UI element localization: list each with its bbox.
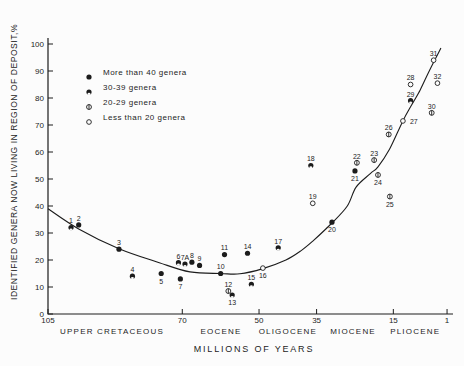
- epoch-label: OLIGOCENE: [259, 327, 317, 336]
- data-point-20: 20: [328, 220, 336, 234]
- y-tick-label: 40: [35, 202, 44, 211]
- point-marker-filled-circle: [189, 260, 194, 265]
- data-point-19: 19: [309, 193, 317, 206]
- data-point-14: 14: [244, 243, 252, 256]
- point-number-label: 21: [351, 175, 359, 182]
- point-marker-filled-circle: [159, 271, 164, 276]
- data-point-5: 5: [159, 271, 164, 285]
- point-marker-filled-circle: [86, 74, 91, 79]
- point-number-label: 24: [374, 179, 382, 186]
- data-point-10: 10: [217, 263, 225, 276]
- point-number-label: 7: [178, 283, 182, 290]
- open-circle-icon: [84, 113, 94, 123]
- filled-circle-glyph: [84, 72, 94, 82]
- data-point-22: 22: [353, 153, 361, 166]
- data-point-12: 12: [224, 281, 232, 294]
- data-point-7A: 7A: [181, 254, 190, 267]
- data-point-2: 2: [76, 215, 81, 228]
- data-point-18: 18: [307, 155, 315, 168]
- x-tick-label: 35: [312, 316, 321, 325]
- point-number-label: 2: [77, 215, 81, 222]
- point-marker-open-circle: [401, 119, 406, 124]
- point-marker-open-circle: [261, 266, 266, 271]
- data-point-26: 26: [385, 124, 393, 137]
- data-point-1: 1: [68, 217, 73, 230]
- point-number-label: 11: [221, 244, 228, 251]
- point-number-label: 15: [247, 274, 255, 281]
- epoch-label: MIOCENE: [330, 327, 376, 336]
- point-marker-filled-circle: [178, 276, 183, 281]
- epoch-label: EOCENE: [201, 327, 242, 336]
- point-number-label: 9: [198, 255, 202, 262]
- epoch-label: PLIOCENE: [390, 327, 440, 336]
- data-point-9: 9: [197, 255, 202, 268]
- x-tick-label: 1: [445, 316, 450, 325]
- legend-item: 30-39 genera: [84, 82, 187, 93]
- point-marker-filled-circle: [76, 222, 81, 227]
- circle-bottom-notch-glyph: [84, 87, 94, 97]
- epoch-label: UPPER CRETACEOUS: [60, 327, 164, 336]
- point-number-label: 22: [353, 153, 361, 160]
- point-number-label: 23: [370, 150, 378, 157]
- y-axis-title: IDENTIFIED GENERA NOW LIVING IN REGION O…: [9, 24, 19, 300]
- point-number-label: 25: [386, 201, 394, 208]
- data-point-3: 3: [116, 239, 121, 252]
- data-point-4: 4: [130, 266, 135, 279]
- point-marker-notch: [277, 249, 280, 251]
- point-number-label: 17: [274, 238, 282, 245]
- y-tick-label: 50: [35, 175, 44, 184]
- point-marker-notch: [183, 265, 186, 267]
- data-point-25: 25: [386, 194, 394, 207]
- data-point-7: 7: [178, 276, 183, 290]
- point-marker-open-circle: [431, 58, 436, 63]
- data-point-21: 21: [351, 168, 359, 182]
- y-tick-label: 80: [35, 94, 44, 103]
- point-number-label: 13: [228, 299, 236, 306]
- data-point-17: 17: [274, 238, 282, 251]
- point-number-label: 32: [434, 73, 442, 80]
- point-number-label: 19: [309, 193, 317, 200]
- point-number-label: 12: [224, 281, 232, 288]
- x-axis-title: MILLIONS OF YEARS: [194, 344, 314, 354]
- point-number-label: 26: [385, 124, 393, 131]
- point-marker-filled-circle: [218, 271, 223, 276]
- legend-item: Less than 20 genera: [84, 112, 187, 123]
- circle-vertical-bar-icon: [84, 98, 94, 108]
- point-number-label: 1: [69, 217, 73, 224]
- point-marker-notch: [231, 296, 234, 298]
- point-marker-notch: [88, 92, 91, 94]
- data-point-28: 28: [407, 74, 415, 87]
- point-number-label: 20: [328, 226, 336, 233]
- point-marker-open-circle: [408, 82, 413, 87]
- legend-item: 20-29 genera: [84, 97, 187, 108]
- point-number-label: 8: [190, 252, 194, 259]
- point-number-label: 14: [244, 243, 252, 250]
- data-point-27: 27: [401, 118, 418, 125]
- y-tick-label: 70: [35, 121, 44, 130]
- point-number-label: 29: [407, 91, 415, 98]
- data-point-24: 24: [374, 173, 382, 186]
- point-marker-notch: [409, 102, 412, 104]
- data-point-15: 15: [247, 274, 255, 287]
- data-point-30: 30: [428, 103, 436, 116]
- legend-item: More than 40 genera: [84, 67, 187, 78]
- point-marker-filled-circle: [352, 168, 357, 173]
- data-point-31: 31: [430, 50, 438, 63]
- point-marker-open-circle: [435, 81, 440, 86]
- data-point-13: 13: [228, 293, 236, 307]
- legend-item-label: 20-29 genera: [103, 98, 157, 107]
- circle-vertical-bar-glyph: [84, 102, 94, 112]
- x-tick-label: 105: [41, 316, 55, 325]
- point-marker-filled-circle: [222, 252, 227, 257]
- point-number-label: 3: [117, 239, 121, 246]
- data-point-32: 32: [434, 73, 442, 86]
- circle-bottom-notch-icon: [84, 83, 94, 93]
- point-marker-notch: [70, 228, 73, 230]
- point-number-label: 18: [307, 155, 315, 162]
- point-marker-notch: [309, 166, 312, 168]
- y-tick-label: 60: [35, 148, 44, 157]
- y-tick-label: 20: [35, 256, 44, 265]
- point-marker-notch: [250, 285, 253, 287]
- point-marker-open-circle: [87, 119, 92, 124]
- point-number-label: 27: [410, 118, 418, 125]
